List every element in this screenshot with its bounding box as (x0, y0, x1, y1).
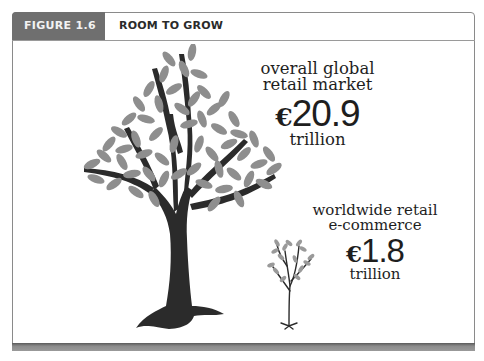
figure-title: ROOM TO GROW (119, 12, 223, 40)
stat-unit: trillion (305, 267, 445, 282)
stat-global-retail: overall global retail market €20.9 trill… (250, 61, 385, 148)
figure-bottom-rule (12, 343, 475, 351)
stat-unit: trillion (250, 132, 385, 148)
stat-value: €20.9 (250, 95, 385, 132)
stat-label-line2: e-commerce (305, 218, 445, 233)
euro-symbol: € (346, 240, 361, 267)
stat-number: 20.9 (292, 93, 360, 134)
stat-ecommerce: worldwide retail e-commerce €1.8 trillio… (305, 203, 445, 282)
figure-number-tab: FIGURE 1.6 (12, 12, 105, 40)
stat-number: 1.8 (361, 232, 404, 269)
euro-symbol: € (275, 103, 291, 132)
stat-label-line2: retail market (250, 77, 385, 93)
figure-header: FIGURE 1.6 ROOM TO GROW (12, 12, 475, 41)
stat-value: €1.8 (305, 234, 445, 267)
